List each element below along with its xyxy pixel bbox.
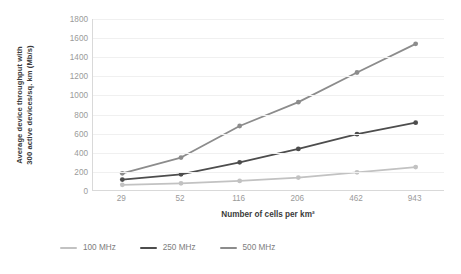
gridline — [93, 134, 444, 135]
gridline — [93, 172, 444, 173]
data-point-marker — [413, 120, 418, 125]
data-point-marker — [120, 182, 125, 187]
y-axis-title-line-2: 300 active devices/sq. km (Mb/s) — [25, 45, 34, 164]
legend-label: 250 MHz — [163, 243, 196, 252]
gridline — [93, 57, 444, 58]
legend-label: 100 MHz — [83, 243, 116, 252]
data-point-marker — [237, 160, 242, 165]
x-axis-title: Number of cells per km² — [92, 210, 444, 219]
series-line-500-mhz — [122, 44, 415, 173]
y-axis-tick-label: 1000 — [48, 91, 88, 100]
data-point-marker — [296, 100, 301, 105]
y-axis-title: Average device throughput with 300 activ… — [8, 0, 42, 210]
y-axis-tick-label: 0 — [48, 187, 88, 196]
legend-swatch-icon — [220, 247, 237, 249]
gridline — [93, 115, 444, 116]
legend-swatch-icon — [60, 247, 77, 249]
gridline — [93, 76, 444, 77]
plot-area — [92, 19, 444, 191]
y-axis-tick-label: 1800 — [48, 15, 88, 24]
x-axis-tick-label: 943 — [408, 194, 422, 203]
x-axis-tick-label: 29 — [117, 194, 126, 203]
data-point-marker — [413, 41, 418, 46]
gridline — [93, 153, 444, 154]
gridline — [93, 95, 444, 96]
y-axis-tick-label: 800 — [48, 110, 88, 119]
legend-item[interactable]: 100 MHz — [60, 243, 116, 252]
x-axis-tick-label: 206 — [290, 194, 304, 203]
legend-item[interactable]: 250 MHz — [140, 243, 196, 252]
data-point-marker — [413, 165, 418, 170]
gridline — [93, 19, 444, 20]
y-axis-tick-label: 1400 — [48, 53, 88, 62]
y-axis-tick-label: 400 — [48, 148, 88, 157]
x-axis-tick-label: 52 — [175, 194, 184, 203]
legend-label: 500 MHz — [243, 243, 276, 252]
data-point-marker — [237, 179, 242, 184]
chart-legend: 100 MHz250 MHz500 MHz — [60, 243, 275, 252]
y-axis-tick-label: 1200 — [48, 72, 88, 81]
x-axis-tick-labels: 2952116206462943 — [92, 194, 444, 208]
data-point-marker — [179, 155, 184, 160]
y-axis-tick-label: 600 — [48, 129, 88, 138]
data-point-marker — [179, 181, 184, 186]
data-point-marker — [296, 175, 301, 180]
y-axis-title-line-1: Average device throughput with — [15, 46, 24, 164]
data-point-marker — [296, 147, 301, 152]
data-point-marker — [355, 70, 360, 75]
legend-swatch-icon — [140, 247, 157, 249]
legend-item[interactable]: 500 MHz — [220, 243, 276, 252]
y-axis-tick-label: 1600 — [48, 34, 88, 43]
data-point-marker — [237, 124, 242, 129]
y-axis-tick-label: 200 — [48, 167, 88, 176]
series-lines — [93, 19, 445, 191]
y-axis-tick-labels: 020040060080010001200140016001800 — [42, 0, 88, 205]
x-axis-tick-label: 116 — [232, 194, 245, 203]
line-chart: Average device throughput with 300 activ… — [0, 0, 461, 274]
gridline — [93, 38, 444, 39]
data-point-marker — [120, 177, 125, 182]
x-axis-tick-label: 462 — [349, 194, 363, 203]
